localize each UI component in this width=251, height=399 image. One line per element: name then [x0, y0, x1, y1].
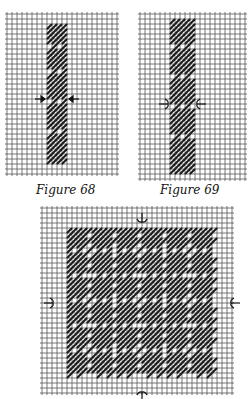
needlepoint-chart-69: [125, 0, 251, 180]
figure-68: [0, 0, 125, 180]
arrow-right-icon: [69, 96, 79, 102]
arrow-bottom-icon: [137, 392, 147, 399]
needlepoint-chart-68: [0, 0, 125, 180]
arrow-right-icon: [231, 298, 240, 308]
needlepoint-chart-70: [0, 200, 251, 399]
figure-69: [125, 0, 251, 180]
caption-figure-69: Figure 69: [160, 183, 220, 197]
arrow-left-icon: [44, 298, 53, 308]
arrow-left-icon: [35, 96, 45, 102]
stitch-band: [171, 20, 195, 174]
figure-70: [0, 200, 251, 399]
caption-figure-68: Figure 68: [36, 183, 96, 197]
